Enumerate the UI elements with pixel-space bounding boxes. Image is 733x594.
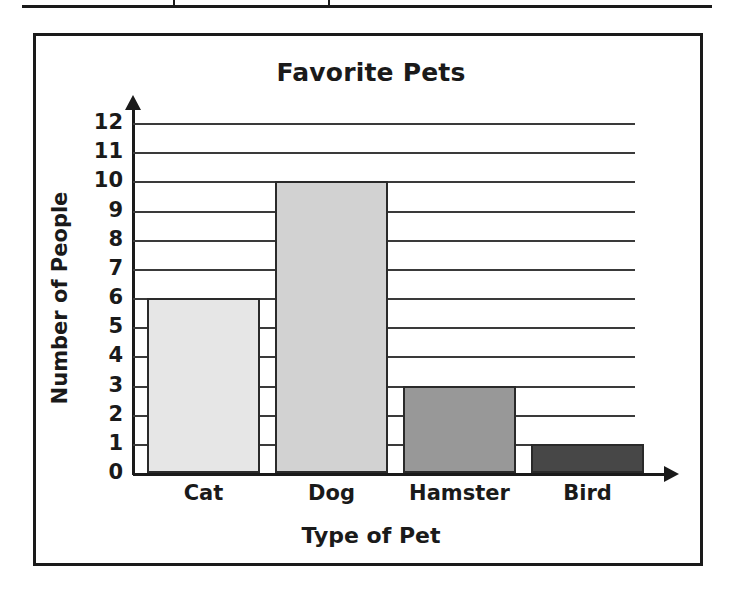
x-axis-baseline (133, 473, 668, 476)
table-cell-divider (173, 0, 175, 8)
y-tick-label: 0 (63, 462, 123, 483)
bar-cat (147, 298, 260, 473)
y-axis-arrow-icon (125, 95, 141, 110)
chart-title: Favorite Pets (36, 58, 706, 87)
category-label-cat: Cat (147, 481, 260, 505)
y-tick-label: 1 (63, 433, 123, 454)
y-tick-label: 10 (63, 170, 123, 191)
y-tick-label: 4 (63, 345, 123, 366)
y-tick-label: 12 (63, 112, 123, 133)
y-tick-label: 9 (63, 200, 123, 221)
gridline (133, 123, 635, 125)
y-tick-label: 8 (63, 229, 123, 250)
x-axis-label: Type of Pet (36, 523, 706, 548)
category-label-bird: Bird (531, 481, 644, 505)
plot-area: 1211109876543210 CatDogHamsterBird (133, 123, 668, 473)
y-tick-label: 2 (63, 404, 123, 425)
table-cell-divider (328, 0, 330, 8)
y-tick-label: 11 (63, 141, 123, 162)
bar-chart-figure: Favorite Pets Number of People Type of P… (33, 33, 703, 566)
category-label-dog: Dog (275, 481, 388, 505)
category-label-hamster: Hamster (403, 481, 516, 505)
y-axis-line (132, 103, 135, 475)
y-tick-label: 7 (63, 258, 123, 279)
y-tick-label: 6 (63, 287, 123, 308)
table-fragment-above-chart (22, 0, 712, 8)
bar-hamster (403, 386, 516, 474)
bar-bird (531, 444, 644, 473)
bar-dog (275, 181, 388, 473)
y-tick-label: 5 (63, 316, 123, 337)
y-tick-label: 3 (63, 375, 123, 396)
gridline (133, 152, 635, 154)
